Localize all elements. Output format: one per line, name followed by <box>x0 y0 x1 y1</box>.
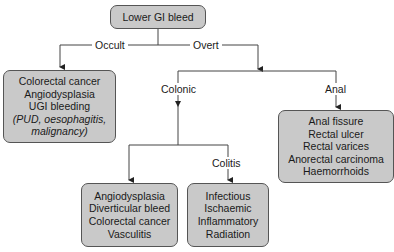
colitis-item: Infectious <box>206 190 251 203</box>
colitis-item: Inflammatory <box>198 215 259 228</box>
anal-item: Haemorrhoids <box>303 165 369 178</box>
anal-item: Rectal varices <box>303 140 369 153</box>
anal-item: Anorectal carcinoma <box>288 153 384 166</box>
root-node-label: Lower GI bleed <box>122 11 193 24</box>
occult-item: Angiodysplasia <box>24 88 95 101</box>
occult-note: malignancy) <box>31 125 88 138</box>
anal-item: Anal fissure <box>309 115 364 128</box>
colonic-item: Vasculitis <box>108 228 152 241</box>
branch-label-colonic: Colonic <box>158 83 199 95</box>
colonic-causes-box: Angiodysplasia Diverticular bleed Colore… <box>81 183 178 247</box>
root-node-lower-gi-bleed: Lower GI bleed <box>110 5 206 29</box>
colonic-item: Diverticular bleed <box>89 202 170 215</box>
anal-causes-box: Anal fissure Rectal ulcer Rectal varices… <box>278 110 394 183</box>
colonic-item: Angiodysplasia <box>94 190 165 203</box>
branch-label-colitis: Colitis <box>209 157 244 169</box>
branch-label-overt: Overt <box>190 39 222 51</box>
occult-item: Colorectal cancer <box>19 75 101 88</box>
colitis-causes-box: Infectious Ischaemic Inflammatory Radiat… <box>187 183 269 247</box>
occult-note: (PUD, oesophagitis, <box>13 113 106 126</box>
occult-causes-box: Colorectal cancer Angiodysplasia UGI ble… <box>3 70 116 143</box>
occult-item: UGI bleeding <box>29 100 90 113</box>
colonic-item: Colorectal cancer <box>89 215 171 228</box>
colitis-item: Radiation <box>206 228 250 241</box>
colitis-item: Ischaemic <box>204 202 251 215</box>
branch-label-occult: Occult <box>92 39 128 51</box>
anal-item: Rectal ulcer <box>308 128 363 141</box>
branch-label-anal: Anal <box>322 83 349 95</box>
